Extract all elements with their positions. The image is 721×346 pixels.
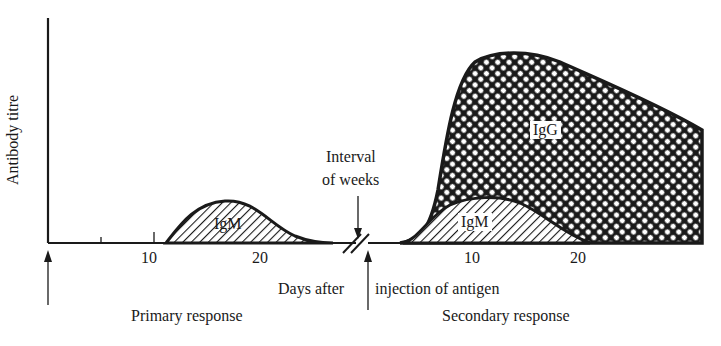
primary-igm-label: IgM xyxy=(214,216,242,232)
x-axis-label-part1: Days after xyxy=(278,281,344,297)
tick-label-secondary-20: 20 xyxy=(570,250,586,266)
primary-igm-area xyxy=(166,201,333,243)
secondary-igm-label: IgM xyxy=(458,213,492,231)
interval-label-line1: Interval xyxy=(326,149,376,165)
secondary-response-label: Secondary response xyxy=(442,308,570,324)
arrow-up-icon xyxy=(44,250,52,262)
interval-label-line2: of weeks xyxy=(322,172,379,188)
tick-label-primary-20: 20 xyxy=(252,250,268,266)
y-axis-label: Antibody titre xyxy=(4,95,22,185)
tick-label-primary-10: 10 xyxy=(141,250,157,266)
tick-label-secondary-10: 10 xyxy=(464,250,480,266)
primary-response-label: Primary response xyxy=(131,308,243,324)
secondary-igg-label: IgG xyxy=(530,121,561,139)
arrow-up-icon xyxy=(364,250,372,262)
arrow-down-icon xyxy=(354,228,362,239)
x-axis-label-part2: injection of antigen xyxy=(375,281,499,297)
